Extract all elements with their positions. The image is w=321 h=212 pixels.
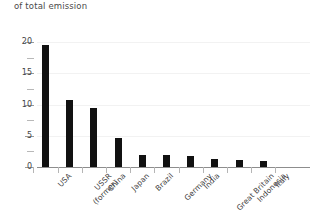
y-tick-minor xyxy=(27,58,34,59)
x-tick xyxy=(130,167,131,173)
bar[interactable] xyxy=(90,108,97,167)
y-tick-minor xyxy=(27,89,34,90)
x-tick-label: Japan xyxy=(130,172,151,193)
bar[interactable] xyxy=(211,159,218,167)
gridline xyxy=(37,105,310,106)
x-tick-label: Brazil xyxy=(155,172,176,193)
y-tick-label: 5 xyxy=(18,132,32,140)
x-tick xyxy=(251,167,252,173)
bar[interactable] xyxy=(42,45,49,168)
x-tick xyxy=(154,167,155,173)
plot-area xyxy=(37,42,310,167)
y-tick-minor xyxy=(27,120,34,121)
x-tick xyxy=(203,167,204,173)
x-tick xyxy=(82,167,83,173)
y-tick-label: 0 xyxy=(18,163,32,171)
y-tick-minor xyxy=(27,151,34,152)
bar[interactable] xyxy=(115,138,122,167)
bar[interactable] xyxy=(139,155,146,167)
chart-root: of total emission 05101520 USAUSSR (form… xyxy=(0,0,321,212)
bar[interactable] xyxy=(236,160,243,168)
bar[interactable] xyxy=(187,156,194,167)
y-tick-label: 20 xyxy=(18,38,32,46)
x-tick-label: USA xyxy=(56,172,73,189)
x-tick xyxy=(275,167,276,173)
bar[interactable] xyxy=(66,100,73,168)
gridline xyxy=(37,136,310,137)
gridline xyxy=(37,73,310,74)
x-tick xyxy=(33,167,34,173)
x-tick xyxy=(58,167,59,173)
y-tick-label: 10 xyxy=(18,101,32,109)
x-axis-line xyxy=(37,167,310,168)
y-tick-label: 15 xyxy=(18,69,32,77)
chart-caption: of total emission xyxy=(14,1,87,11)
x-tick xyxy=(227,167,228,173)
bar[interactable] xyxy=(163,155,170,167)
x-tick xyxy=(179,167,180,173)
gridline xyxy=(37,42,310,43)
